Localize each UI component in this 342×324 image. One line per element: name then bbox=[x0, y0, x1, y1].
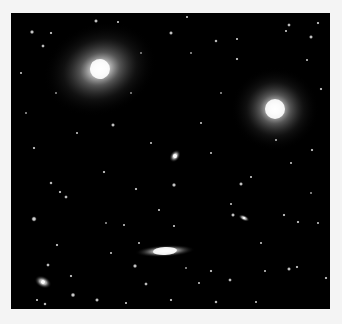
star bbox=[190, 52, 193, 55]
star bbox=[296, 220, 300, 224]
star bbox=[231, 213, 236, 218]
small-galaxy-center bbox=[167, 147, 183, 164]
star bbox=[200, 122, 203, 125]
star bbox=[20, 72, 23, 75]
star bbox=[295, 265, 299, 269]
star bbox=[319, 87, 323, 91]
star bbox=[185, 267, 188, 270]
star bbox=[111, 123, 116, 128]
star bbox=[31, 216, 37, 222]
star bbox=[185, 15, 188, 18]
elliptical-galaxy-large-right bbox=[231, 67, 319, 151]
star bbox=[49, 31, 53, 35]
star bbox=[25, 112, 28, 115]
star bbox=[249, 175, 252, 178]
star bbox=[309, 35, 314, 40]
star bbox=[105, 222, 108, 225]
star bbox=[264, 270, 267, 273]
star bbox=[70, 292, 75, 297]
star bbox=[282, 213, 286, 217]
star bbox=[214, 300, 218, 304]
star bbox=[210, 152, 213, 155]
elliptical-galaxy-large-left bbox=[30, 13, 170, 132]
small-galaxy-bottom-left bbox=[32, 273, 53, 291]
star bbox=[95, 298, 100, 303]
star bbox=[49, 181, 53, 185]
star bbox=[284, 29, 287, 32]
star bbox=[150, 142, 153, 145]
star bbox=[69, 274, 73, 278]
star bbox=[310, 148, 314, 152]
star bbox=[198, 282, 201, 285]
small-galaxy-right bbox=[237, 213, 250, 224]
star bbox=[55, 243, 59, 247]
star bbox=[235, 57, 239, 61]
star bbox=[209, 269, 213, 273]
star bbox=[35, 298, 38, 301]
star bbox=[46, 263, 50, 267]
star bbox=[228, 278, 232, 282]
star bbox=[76, 132, 79, 135]
star bbox=[306, 59, 309, 62]
star bbox=[138, 242, 141, 245]
star bbox=[220, 92, 223, 95]
star bbox=[144, 282, 148, 286]
star bbox=[169, 31, 174, 36]
star bbox=[157, 208, 160, 211]
star bbox=[132, 263, 137, 268]
star bbox=[41, 44, 45, 48]
star bbox=[172, 224, 175, 227]
star bbox=[43, 302, 47, 306]
star bbox=[64, 195, 68, 199]
galaxy-field-image: Deep-sky field with galaxies and stars bbox=[11, 13, 330, 309]
star bbox=[214, 39, 218, 43]
star bbox=[287, 267, 292, 272]
star bbox=[310, 192, 313, 195]
star bbox=[169, 298, 173, 302]
star bbox=[230, 203, 233, 206]
star bbox=[290, 162, 293, 165]
star bbox=[235, 37, 238, 40]
star bbox=[58, 190, 62, 194]
star bbox=[102, 170, 106, 174]
star bbox=[123, 224, 126, 227]
edge-on-spiral-galaxy bbox=[135, 243, 196, 258]
galaxies-layer bbox=[30, 13, 319, 291]
star bbox=[124, 301, 127, 304]
star bbox=[32, 146, 36, 150]
star bbox=[260, 242, 263, 245]
star bbox=[29, 29, 34, 34]
sky-canvas bbox=[11, 13, 330, 309]
star bbox=[324, 276, 328, 280]
star bbox=[317, 222, 320, 225]
star bbox=[316, 21, 320, 25]
star bbox=[110, 252, 113, 255]
star bbox=[171, 182, 176, 187]
star bbox=[134, 187, 138, 191]
star bbox=[287, 23, 291, 27]
star bbox=[239, 182, 244, 187]
star bbox=[255, 301, 258, 304]
